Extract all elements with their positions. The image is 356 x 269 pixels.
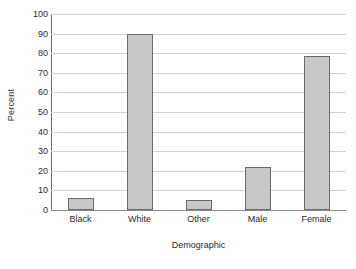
y-axis-tick-label: 0 [43, 205, 48, 215]
y-axis-tick-labels: 0102030405060708090100 [18, 14, 48, 210]
x-axis-title: Demographic [51, 240, 346, 250]
gridline [51, 210, 346, 211]
x-axis-tick-label: Male [228, 214, 287, 224]
bar-white [127, 34, 153, 210]
plot-area [51, 14, 346, 210]
bar-chart-figure: Percent 0102030405060708090100 BlackWhit… [0, 0, 356, 269]
y-axis-tick-label: 100 [33, 9, 48, 19]
bar-female [304, 56, 330, 210]
x-axis-tick-labels: BlackWhiteOtherMaleFemale [51, 214, 346, 224]
bar-black [68, 198, 94, 210]
bar-male [245, 167, 271, 210]
y-axis-tick-label: 90 [38, 29, 48, 39]
bar-slot [287, 14, 346, 210]
y-axis-tick-label: 50 [38, 107, 48, 117]
bar-slot [110, 14, 169, 210]
y-axis-title-text: Percent [6, 89, 16, 121]
y-axis-tick-label: 40 [38, 127, 48, 137]
x-axis-tick-label: White [110, 214, 169, 224]
bar-slot [169, 14, 228, 210]
y-axis-tick-label: 60 [38, 87, 48, 97]
bar-series [51, 14, 346, 210]
bar-other [186, 200, 212, 210]
y-axis-tick-label: 10 [38, 185, 48, 195]
y-axis-tick-label: 30 [38, 146, 48, 156]
y-axis-tick-label: 80 [38, 48, 48, 58]
bar-slot [228, 14, 287, 210]
x-axis-tick-label: Black [51, 214, 110, 224]
y-axis-tick-label: 70 [38, 68, 48, 78]
y-axis-tick-label: 20 [38, 166, 48, 176]
x-axis-tick-label: Female [287, 214, 346, 224]
bar-slot [51, 14, 110, 210]
x-axis-tick-label: Other [169, 214, 228, 224]
